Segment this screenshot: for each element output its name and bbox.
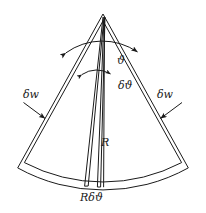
angle-theta-label: ϑ <box>117 55 125 66</box>
angle-delta-theta-label: δϑ <box>118 80 133 91</box>
delta-w-right-arrow <box>161 103 183 119</box>
sector-figure: ϑ δϑ δw δw R Rδϑ <box>0 0 206 213</box>
arc-length-label: Rδϑ <box>80 192 103 203</box>
delta-w-left-arrow <box>24 103 46 119</box>
delta-w-left-label: δw <box>23 89 39 100</box>
sector-diagram-svg <box>0 0 206 213</box>
radius-label: R <box>101 137 109 148</box>
radius-line <box>104 17 105 187</box>
delta-theta-arc-arrow <box>82 70 111 75</box>
delta-w-right-label: δw <box>157 89 173 100</box>
